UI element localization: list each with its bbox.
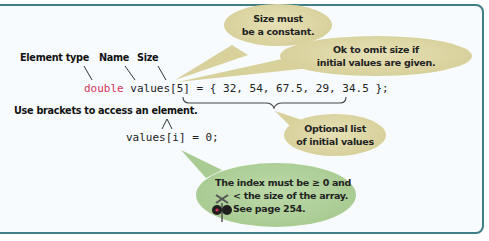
omit-size-callout: Ok to omit size if initial values are gi… bbox=[280, 36, 472, 76]
callout-text: Size must bbox=[253, 12, 303, 25]
element-type-label: Element type bbox=[20, 51, 89, 63]
access-label: Use brackets to access an element. bbox=[14, 104, 197, 116]
optional-list-callout: Optional list of initial values bbox=[284, 114, 386, 156]
callout-text: See page 254. bbox=[233, 202, 305, 215]
callout-text: The index must be ≥ 0 and bbox=[215, 176, 351, 189]
callout-text: be a constant. bbox=[242, 25, 315, 38]
callout-text: initial values are given. bbox=[317, 56, 436, 69]
name-label: Name bbox=[99, 51, 129, 63]
array-access-code: values[i] = 0; bbox=[126, 131, 219, 144]
type-keyword: double bbox=[84, 82, 124, 95]
callout-text: of initial values bbox=[296, 135, 374, 148]
array-declaration-code: double values[5] = { 32, 54, 67.5, 29, 3… bbox=[84, 82, 389, 95]
railroad-crossing-icon bbox=[211, 193, 233, 223]
size-label: Size bbox=[137, 51, 158, 63]
callout-text: < the size of the array. bbox=[233, 189, 348, 202]
callout-text: Optional list bbox=[304, 122, 366, 135]
declaration-rest: values[5] = { 32, 54, 67.5, 29, 34.5 }; bbox=[124, 82, 389, 95]
callout-text: Ok to omit size if bbox=[333, 43, 419, 56]
